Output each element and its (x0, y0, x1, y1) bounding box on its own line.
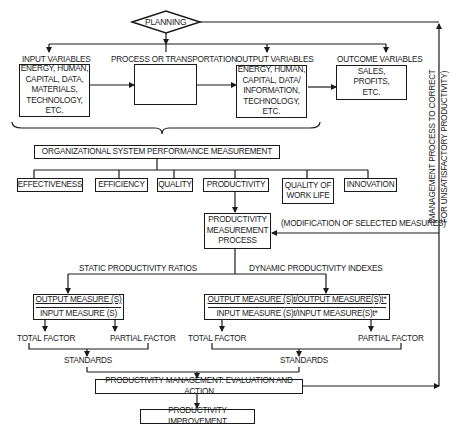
feedback-label-line2: FOR UNSATISFACTORY PRODUCTIVITY) (440, 71, 450, 223)
measurement-process-box: PRODUCTIVITY MEASUREMENT PROCESS (204, 213, 271, 249)
planning-decision: PLANNING (145, 17, 186, 27)
input-variables-box: ENERGY, HUMAN, CAPITAL, DATA, MATERIALS,… (19, 64, 90, 117)
output-variables-title: OUTPUT VARIABLES (236, 55, 313, 65)
dynamic-partial-factor: PARTIAL FACTOR (358, 334, 424, 344)
static-ratio-box: OUTPUT MEASURE (S) INPUT MEASURE (S) (33, 294, 124, 320)
static-numerator: OUTPUT MEASURE (S) (36, 295, 122, 308)
modification-label: (MODIFICATION OF SELECTED MEASURES) (281, 219, 446, 229)
performance-measurement-box: ORGANIZATIONAL SYSTEM PERFORMANCE MEASUR… (34, 145, 280, 159)
criterion-efficiency: EFFICIENCY (95, 178, 148, 192)
criterion-productivity: PRODUCTIVITY (203, 178, 269, 192)
process-box (134, 64, 197, 105)
dynamic-standards: STANDARDS (280, 356, 328, 366)
static-standards: STANDARDS (64, 356, 112, 366)
static-denominator: INPUT MEASURE (S) (40, 308, 117, 320)
outcome-variables-box: SALES, PROFITS, ETC. (336, 65, 407, 100)
productivity-management-box: PRODUCTIVITY MANAGEMENT: EVALUATION AND … (95, 379, 303, 394)
dynamic-index-box: OUTPUT MEASURE (S)t/OUTPUT MEASURE(S)t* … (204, 294, 390, 320)
criterion-effectiveness: EFFECTIVENESS (17, 178, 83, 192)
dynamic-total-factor: TOTAL FACTOR (188, 334, 246, 344)
dynamic-numerator: OUTPUT MEASURE (S)t/OUTPUT MEASURE(S)t* (208, 295, 387, 308)
outcome-variables-title: OUTCOME VARIABLES (337, 55, 423, 65)
criterion-quality: QUALITY (157, 178, 193, 192)
output-variables-box: ENERGY, HUMAN, CAPITAL, DATA/ INFORMATIO… (236, 65, 307, 118)
productivity-improvement-box: PRODUCTIVITY IMPROVEMENT (140, 409, 255, 424)
criterion-innovation: INNOVATION (344, 178, 397, 192)
static-total-factor: TOTAL FACTOR (17, 334, 75, 344)
dynamic-indexes-label: DYNAMIC PRODUCTIVITY INDEXES (249, 264, 382, 274)
static-partial-factor: PARTIAL FACTOR (110, 334, 176, 344)
criterion-quality-of-work-life: QUALITY OF WORK LIFE (282, 178, 334, 204)
static-ratios-label: STATIC PRODUCTIVITY RATIOS (79, 264, 197, 274)
dynamic-denominator: INPUT MEASURE (S)t/INPUT MEASURE(S)t* (216, 308, 377, 320)
feedback-label-line1: (MANAGEMENT PROCESS TO CORRECT (428, 69, 438, 223)
